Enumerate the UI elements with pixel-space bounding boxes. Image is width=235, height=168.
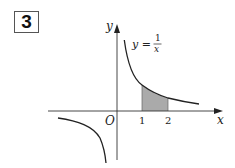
- function-label: y = 1 x: [131, 33, 162, 54]
- y-axis-label: y: [105, 19, 113, 33]
- x-axis-label: x: [217, 113, 224, 127]
- graph: y x O 1 2 y = 1 x: [0, 0, 235, 168]
- curve-negative-branch: [58, 118, 106, 163]
- x-tick-label-2: 2: [165, 115, 171, 126]
- x-tick-label-1: 1: [139, 115, 145, 126]
- y-axis-arrow-icon: [114, 24, 120, 33]
- origin-label: O: [105, 114, 115, 128]
- function-label-lhs: y =: [131, 38, 151, 51]
- function-label-numerator: 1: [155, 33, 161, 43]
- shaded-area: [142, 85, 168, 111]
- function-label-denominator: x: [154, 44, 159, 54]
